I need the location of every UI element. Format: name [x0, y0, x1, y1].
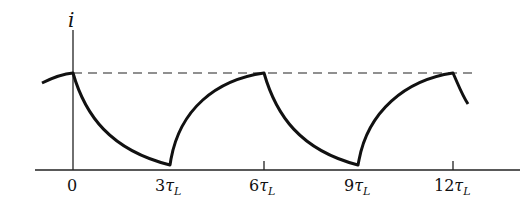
x-tick-label-9: 9τL: [344, 176, 370, 195]
y-axis-label: i: [68, 8, 74, 32]
x-tick-label-6: 6τL: [249, 176, 275, 195]
x-tick-label-0: 0: [67, 176, 77, 195]
x-tick-label-3: 3τL: [155, 176, 181, 195]
current-curve: [42, 73, 468, 165]
x-tick-label-12: 12τL: [434, 176, 471, 195]
